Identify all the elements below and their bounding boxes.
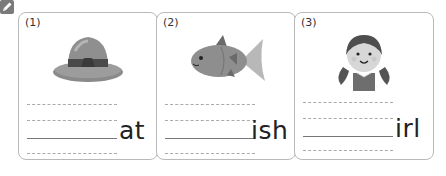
word-suffix: ish: [251, 116, 288, 145]
word-suffix: irl: [395, 114, 421, 143]
dashed-guide-line: [27, 120, 117, 121]
girl-image: [295, 25, 433, 95]
dashed-guide-line: [165, 120, 255, 121]
dashed-guide-line: [165, 104, 255, 105]
card-1: (1) at: [18, 12, 158, 160]
dashed-guide-line: [303, 150, 393, 151]
fish-image: [157, 25, 295, 95]
dashed-guide-line: [27, 104, 117, 105]
card-3: (3) irl: [294, 12, 434, 160]
hat-image: [19, 25, 157, 95]
answer-line[interactable]: [303, 136, 393, 137]
card-2: (2) ish: [156, 12, 296, 160]
pencil-icon: [0, 0, 14, 14]
dashed-guide-line: [165, 153, 255, 154]
answer-line[interactable]: [27, 138, 117, 139]
dashed-guide-line: [27, 153, 117, 154]
dashed-guide-line: [303, 118, 393, 119]
word-suffix: at: [119, 116, 145, 145]
answer-line[interactable]: [165, 138, 255, 139]
dashed-guide-line: [303, 102, 393, 103]
